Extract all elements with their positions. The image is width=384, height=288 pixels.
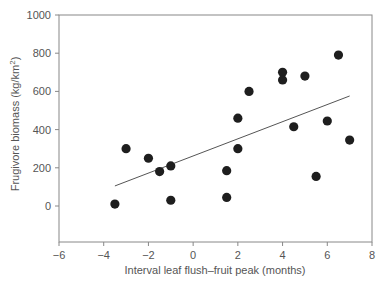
x-axis: −6−4−202468 [53, 242, 375, 261]
data-point [278, 75, 287, 84]
y-axis-title: Frugivore biomass (kg/km2) [8, 57, 21, 192]
x-tick-label: −6 [53, 249, 66, 261]
data-point [166, 196, 175, 205]
y-tick-label: 600 [33, 85, 51, 97]
data-point [244, 87, 253, 96]
x-tick-label: 0 [190, 249, 196, 261]
y-tick-label: 800 [33, 47, 51, 59]
data-point [334, 51, 343, 60]
plot-frame [59, 15, 372, 242]
data-point [110, 199, 119, 208]
data-point [121, 144, 130, 153]
data-point [323, 116, 332, 125]
data-point [300, 72, 309, 81]
data-point [345, 136, 354, 145]
y-tick-label: 0 [45, 200, 51, 212]
y-tick-label: 1000 [27, 9, 51, 21]
x-tick-label: 2 [235, 249, 241, 261]
scatter-chart: 02004006008001000 −6−4−202468 Interval l… [0, 0, 384, 288]
y-axis: 02004006008001000 [27, 9, 59, 212]
x-tick-label: −4 [97, 249, 110, 261]
plot-border [59, 15, 372, 242]
y-tick-label: 400 [33, 124, 51, 136]
x-tick-label: 8 [369, 249, 375, 261]
data-point [233, 144, 242, 153]
data-point [144, 154, 153, 163]
x-tick-label: 4 [280, 249, 286, 261]
data-points [110, 51, 354, 209]
x-tick-label: 6 [324, 249, 330, 261]
data-point [222, 193, 231, 202]
data-point [312, 172, 321, 181]
data-point [222, 166, 231, 175]
data-point [289, 122, 298, 131]
x-axis-title: Interval leaf flush–fruit peak (months) [125, 264, 306, 276]
x-tick-label: −2 [142, 249, 155, 261]
data-point [233, 114, 242, 123]
data-point [155, 167, 164, 176]
y-tick-label: 200 [33, 162, 51, 174]
data-point [166, 161, 175, 170]
